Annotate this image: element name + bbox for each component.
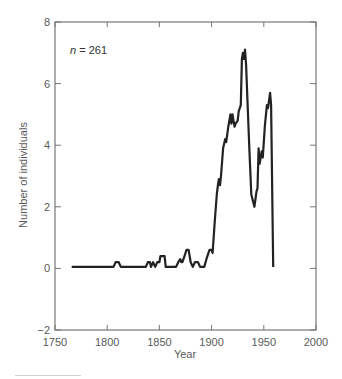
- y-tick-label: −2: [37, 324, 50, 336]
- y-tick-label: 8: [44, 16, 50, 28]
- plot-frame: [55, 22, 316, 330]
- plot-border: [55, 22, 316, 330]
- y-tick-label: 0: [44, 262, 50, 274]
- y-tick-labels: −202468: [37, 16, 50, 336]
- x-tick-label: 1900: [199, 336, 223, 348]
- y-tick-label: 2: [44, 201, 50, 213]
- y-axis-label: Number of individuals: [17, 122, 29, 228]
- sample-size-annotation: n = 261: [70, 44, 107, 56]
- x-tick-label: 1750: [43, 336, 67, 348]
- x-tick-label: 2000: [304, 336, 328, 348]
- x-tick-label: 1800: [95, 336, 119, 348]
- line-chart: 175018001850190019502000 −202468 n = 261…: [0, 0, 342, 379]
- x-tick-label: 1850: [147, 336, 171, 348]
- x-tick-label: 1950: [252, 336, 276, 348]
- x-axis-label: Year: [174, 348, 197, 360]
- axis-ticks: [55, 22, 316, 330]
- x-tick-labels: 175018001850190019502000: [43, 336, 328, 348]
- y-tick-label: 6: [44, 78, 50, 90]
- y-tick-label: 4: [44, 139, 50, 151]
- footer-rule: [15, 375, 81, 376]
- series-line: [72, 50, 274, 267]
